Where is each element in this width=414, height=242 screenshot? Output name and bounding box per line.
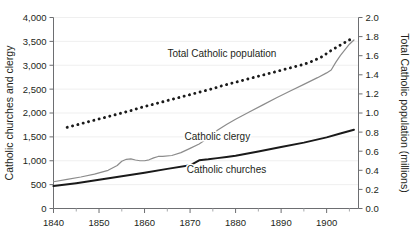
right-axis-title: Total Catholic population (millions)	[399, 33, 411, 192]
left-axis-tick-label: 1,000	[23, 155, 47, 166]
right-axis-tick-label: 0.0	[366, 203, 379, 214]
total-catholic-population-label: Total Catholic population	[167, 48, 276, 59]
right-axis-tick-label: 1.8	[366, 31, 379, 42]
right-axis-tick-label: 0.8	[366, 127, 379, 138]
right-axis-tick-label: 1.2	[366, 88, 379, 99]
left-axis-tick-label: 2,000	[23, 107, 47, 118]
x-axis-tick-label: 1850	[88, 217, 109, 228]
x-axis-tick-label: 1880	[225, 217, 246, 228]
x-axis-tick-label: 1900	[316, 217, 337, 228]
x-axis-tick-label: 1860	[134, 217, 155, 228]
x-axis-tick-label: 1890	[271, 217, 292, 228]
right-axis-tick-label: 0.6	[366, 146, 379, 157]
right-axis-tick-label: 1.0	[366, 107, 379, 118]
right-axis-tick-label: 1.4	[366, 69, 379, 80]
x-axis-tick-label: 1870	[179, 217, 200, 228]
left-axis-tick-label: 0	[41, 203, 46, 214]
left-axis-tick-label: 3,000	[23, 60, 47, 71]
left-axis-tick-label: 500	[31, 179, 47, 190]
left-axis-tick-label: 1,500	[23, 131, 47, 142]
catholic-clergy-label: Catholic clergy	[185, 131, 251, 142]
chart-container: 05001,0001,5002,0002,5003,0003,5004,0000…	[0, 0, 414, 242]
left-axis-tick-label: 3,500	[23, 36, 47, 47]
right-axis-tick-label: 2.0	[366, 12, 379, 23]
left-axis-tick-label: 4,000	[23, 12, 47, 23]
line-chart: 05001,0001,5002,0002,5003,0003,5004,0000…	[0, 0, 414, 242]
right-axis-tick-label: 0.4	[366, 165, 379, 176]
right-axis-tick-label: 1.6	[366, 50, 379, 61]
left-axis-tick-label: 2,500	[23, 84, 47, 95]
plot-background	[0, 0, 414, 242]
x-axis-tick-label: 1840	[43, 217, 64, 228]
catholic-churches-label: Catholic churches	[187, 164, 266, 175]
right-axis-tick-label: 0.2	[366, 184, 379, 195]
left-axis-title: Catholic churches and clergy	[3, 45, 15, 181]
